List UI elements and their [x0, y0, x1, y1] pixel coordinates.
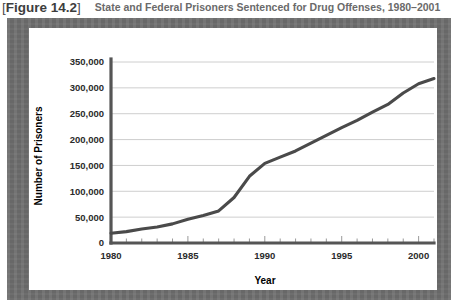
y-tick-label: 300,000	[70, 82, 104, 93]
y-tick-label: 250,000	[70, 108, 104, 119]
figure-header: [Figure 14.2] State and Federal Prisoner…	[0, 0, 458, 17]
y-axis-tick-labels: 050,000100,000150,000200,000250,000300,0…	[70, 56, 104, 248]
data-series-line	[111, 79, 434, 234]
y-tick-label: 0	[99, 237, 104, 248]
y-tick-label: 200,000	[70, 134, 104, 145]
figure-number-label: Figure 14.2	[6, 0, 77, 15]
x-axis-title: Year	[254, 275, 275, 286]
gridlines	[111, 62, 434, 217]
figure-title: State and Federal Prisoners Sentenced fo…	[95, 1, 440, 13]
x-axis-tick-labels: 19801985199019952000	[100, 250, 429, 261]
x-tick-label: 2000	[408, 250, 429, 261]
y-tick-label: 100,000	[70, 186, 104, 197]
x-tick-label: 1980	[100, 250, 121, 261]
chart-panel: 050,000100,000150,000200,000250,000300,0…	[29, 28, 437, 290]
x-tick-label: 1990	[254, 250, 275, 261]
y-tick-label: 350,000	[70, 56, 104, 67]
line-chart: 050,000100,000150,000200,000250,000300,0…	[29, 28, 437, 290]
x-tick-label: 1985	[177, 250, 199, 261]
x-tick-label: 1995	[331, 250, 353, 261]
bracket-right: ]	[77, 0, 81, 15]
y-tick-label: 50,000	[75, 212, 104, 223]
figure-plate: 050,000100,000150,000200,000250,000300,0…	[7, 18, 451, 300]
y-axis-title: Number of Prisoners	[33, 106, 44, 205]
y-tick-label: 150,000	[70, 160, 104, 171]
figure-number-tag: [Figure 14.2]	[0, 0, 81, 15]
